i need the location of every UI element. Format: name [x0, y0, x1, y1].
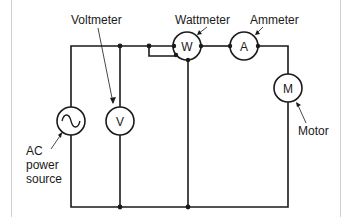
- voltmeter-label: Voltmeter: [71, 13, 122, 27]
- terminal-dot: [256, 44, 260, 48]
- sine-wave-icon: [62, 115, 80, 127]
- circuit-diagram: W A M V Voltmeter Wattmeter Ammeter Moto…: [0, 0, 353, 219]
- wire-wattmeter-loop: [149, 46, 175, 56]
- voltmeter-pointer: [98, 28, 113, 103]
- ac-source-arrowhead: [58, 132, 62, 138]
- ac-source-label-line1: AC: [26, 144, 43, 158]
- ac-source-label-line3: source: [26, 172, 62, 186]
- wattmeter-letter: W: [181, 40, 193, 54]
- voltmeter-letter: V: [116, 115, 124, 129]
- terminal-dot: [172, 44, 176, 48]
- ammeter-letter: A: [240, 40, 248, 54]
- ac-source-label-line2: power: [26, 158, 59, 172]
- wire-ammeter-motor: [258, 46, 288, 74]
- wire-top-left: [71, 46, 173, 107]
- wattmeter-label: Wattmeter: [175, 13, 230, 27]
- terminal-dot: [186, 58, 190, 62]
- wire-bottom: [71, 102, 288, 207]
- junction-dot: [118, 44, 123, 49]
- motor-arrowhead: [296, 102, 301, 107]
- motor-letter: M: [283, 82, 293, 96]
- motor-label: Motor: [298, 124, 329, 138]
- terminal-dot: [174, 53, 178, 57]
- terminal-dot: [228, 44, 232, 48]
- junction-dot: [118, 205, 123, 210]
- junction-dot: [186, 205, 191, 210]
- ammeter-label: Ammeter: [250, 13, 299, 27]
- terminal-dot: [199, 44, 203, 48]
- junction-dot: [147, 44, 152, 49]
- voltmeter-arrowhead: [110, 97, 116, 104]
- wattmeter-arrowhead: [197, 30, 202, 35]
